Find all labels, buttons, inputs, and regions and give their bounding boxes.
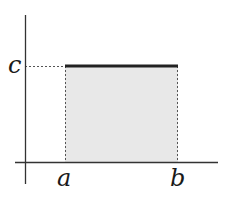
shaded-area	[65, 66, 178, 162]
label-c: c	[8, 51, 21, 79]
uniform-distribution-diagram: c a b	[0, 0, 227, 199]
label-a: a	[57, 164, 71, 192]
label-b: b	[170, 164, 185, 192]
